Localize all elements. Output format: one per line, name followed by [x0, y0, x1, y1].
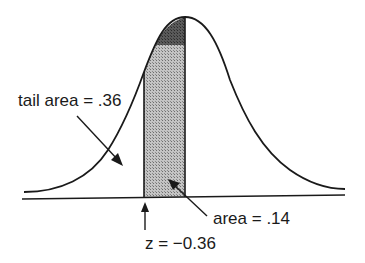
shaded-area-region — [144, 45, 185, 197]
shaded-area-top-band — [155, 17, 185, 45]
z-value-label: z = −0.36 — [145, 234, 216, 253]
tail-area-label: tail area = .36 — [18, 91, 122, 110]
tail-area-arrow — [77, 116, 118, 160]
z-arrowhead — [141, 202, 149, 212]
area-label: area = .14 — [213, 209, 290, 228]
area-arrow — [173, 184, 207, 216]
normal-curve-diagram: tail area = .36 area = .14 z = −0.36 — [0, 0, 365, 263]
